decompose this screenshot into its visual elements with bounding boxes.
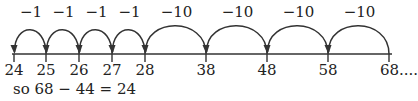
- jump-arc: [328, 26, 389, 54]
- jump-label: −10: [344, 3, 376, 21]
- arrowhead-icon: [76, 45, 83, 54]
- arrowhead-icon: [109, 45, 116, 54]
- tick-label: 27: [102, 61, 121, 79]
- jump-label: −1: [118, 3, 140, 21]
- jump-label: −10: [222, 3, 254, 21]
- jump-arc: [79, 30, 112, 54]
- jump-label: −1: [20, 3, 42, 21]
- conclusion-text: so 68 − 44 = 24: [13, 80, 136, 98]
- jump-label: −1: [85, 3, 107, 21]
- arrowhead-icon: [203, 45, 210, 54]
- arrowhead-icon: [264, 45, 271, 54]
- jump-arc: [145, 26, 206, 54]
- arrowhead-icon: [142, 45, 149, 54]
- tick-label: 68....: [380, 61, 418, 79]
- jump-label: −1: [52, 3, 74, 21]
- jump-arc: [206, 26, 267, 54]
- jump-arc: [112, 30, 145, 54]
- tick-label: 26: [69, 61, 88, 79]
- jump-arc: [14, 30, 46, 54]
- arrowhead-icon: [325, 45, 332, 54]
- tick-label: 48: [257, 61, 276, 79]
- tick-label: 25: [36, 61, 55, 79]
- arrowhead-icon: [43, 45, 50, 54]
- jump-arc: [46, 30, 79, 54]
- tick-label: 24: [4, 61, 23, 79]
- jump-label: −10: [283, 3, 315, 21]
- jump-arc: [267, 26, 328, 54]
- tick-label: 58: [318, 61, 337, 79]
- jump-label: −10: [161, 3, 193, 21]
- arrowhead-icon: [11, 45, 18, 54]
- tick-label: 38: [196, 61, 215, 79]
- tick-label: 28: [135, 61, 154, 79]
